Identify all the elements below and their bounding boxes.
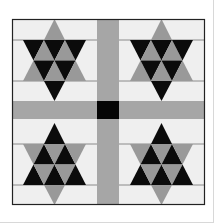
center-square: [97, 101, 119, 119]
quilt-image: [0, 0, 216, 224]
